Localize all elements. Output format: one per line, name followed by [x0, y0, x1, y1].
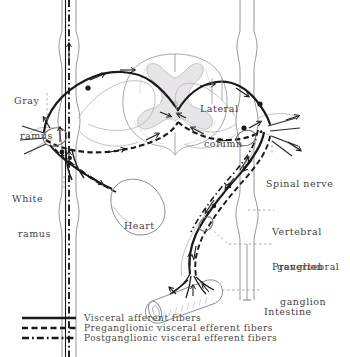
label-prevertebral-ganglion-line1: Prevertebral — [272, 261, 339, 273]
legend-line-samples — [22, 318, 76, 338]
label-gray-ramus-line1: Gray — [14, 95, 53, 107]
legend-item-label-0: Visceral afferent fibers — [84, 313, 201, 323]
label-heart-line1: Heart — [124, 220, 155, 231]
label-white-ramus-line1: White — [12, 193, 51, 205]
legend-item-label-1: Preganglionic visceral efferent fibers — [84, 323, 273, 333]
label-white-ramus: White ramus — [12, 170, 51, 262]
label-lateral-column: Lateral column — [200, 80, 243, 172]
label-lateral-column-line2: column — [200, 138, 243, 150]
label-gray-ramus-line2: ramus — [14, 130, 53, 142]
label-spinal-nerve-line1: Spinal nerve — [266, 178, 333, 189]
label-intestine-line1: Intestine — [264, 306, 312, 317]
anatomy-figure: Gray ramus White ramus Lateral column Sp… — [0, 0, 350, 357]
label-white-ramus-line2: ramus — [12, 228, 51, 240]
label-vertebral-ganglion-line1: Vertebral — [272, 226, 323, 238]
label-lateral-column-line1: Lateral — [200, 103, 243, 115]
legend-item-label-2: Postganglionic visceral efferent fibers — [84, 333, 277, 343]
prevertebral-ganglion-node — [196, 214, 216, 234]
right-spinal-nerve-branches — [268, 118, 300, 156]
label-heart: Heart — [124, 198, 155, 253]
label-gray-ramus: Gray ramus — [14, 72, 53, 164]
